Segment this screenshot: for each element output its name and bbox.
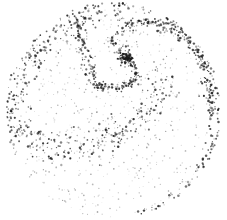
- data-point: [121, 31, 122, 32]
- data-point: [96, 96, 98, 98]
- data-point: [105, 127, 106, 128]
- data-point: [62, 189, 63, 190]
- data-point: [207, 70, 208, 71]
- data-point: [84, 73, 86, 75]
- data-point: [118, 25, 119, 26]
- data-point: [98, 128, 100, 130]
- data-point: [95, 77, 96, 78]
- data-point: [60, 19, 61, 20]
- data-point: [119, 19, 120, 20]
- data-point: [119, 143, 120, 144]
- data-point: [19, 136, 20, 137]
- data-point: [15, 152, 16, 154]
- data-point: [114, 183, 115, 184]
- data-point: [135, 12, 136, 13]
- data-point: [127, 130, 129, 132]
- data-point: [16, 131, 18, 133]
- data-point: [22, 101, 24, 103]
- data-point: [22, 74, 25, 77]
- data-point: [62, 158, 64, 160]
- data-point: [111, 24, 112, 25]
- data-point: [137, 111, 138, 112]
- data-point: [49, 49, 51, 51]
- data-point: [161, 25, 162, 26]
- data-point: [51, 132, 52, 133]
- data-point: [63, 157, 64, 158]
- data-point: [89, 160, 91, 162]
- data-point: [122, 128, 124, 130]
- data-point: [34, 50, 36, 52]
- data-point: [51, 44, 52, 45]
- data-point: [146, 209, 147, 210]
- data-point: [12, 109, 14, 111]
- data-point: [210, 82, 211, 83]
- data-point: [199, 61, 200, 62]
- data-point: [22, 60, 23, 61]
- data-point: [26, 111, 27, 112]
- data-point: [46, 52, 48, 54]
- data-point: [84, 29, 86, 31]
- data-point: [88, 156, 90, 158]
- data-point: [54, 83, 55, 84]
- data-point: [136, 78, 137, 79]
- data-point: [217, 121, 219, 123]
- data-point: [38, 66, 41, 69]
- data-point: [28, 52, 30, 54]
- data-point: [157, 21, 158, 22]
- data-point: [48, 81, 49, 82]
- data-point: [134, 76, 135, 77]
- data-point: [215, 138, 217, 140]
- data-point: [114, 135, 115, 136]
- data-point: [206, 84, 207, 85]
- data-point: [89, 17, 92, 20]
- data-point: [208, 62, 210, 64]
- data-point: [128, 49, 130, 51]
- data-point: [216, 87, 218, 89]
- data-point: [27, 158, 28, 159]
- data-point: [158, 120, 159, 121]
- data-point: [16, 86, 17, 87]
- data-point: [125, 45, 127, 47]
- data-point: [20, 97, 21, 98]
- data-point: [209, 96, 211, 98]
- data-point: [100, 98, 101, 99]
- data-point: [83, 23, 85, 25]
- data-point: [140, 33, 142, 35]
- data-point: [136, 155, 138, 157]
- data-point: [134, 42, 135, 43]
- data-point: [32, 146, 33, 147]
- data-point: [130, 28, 131, 29]
- data-point: [153, 95, 154, 96]
- data-point: [189, 181, 190, 182]
- data-point: [69, 16, 70, 17]
- data-point: [119, 10, 121, 12]
- data-point: [33, 141, 34, 142]
- data-point: [112, 196, 113, 197]
- data-point: [48, 156, 50, 158]
- data-point: [91, 15, 92, 16]
- data-point: [209, 80, 211, 82]
- data-point: [215, 98, 216, 99]
- data-point: [95, 129, 97, 131]
- data-point: [28, 126, 30, 128]
- data-point: [168, 80, 169, 81]
- data-point: [135, 30, 137, 32]
- data-point: [132, 5, 134, 7]
- data-point: [66, 141, 68, 143]
- data-point: [48, 171, 50, 173]
- data-point: [32, 170, 34, 172]
- data-point: [128, 57, 131, 60]
- data-point: [78, 52, 80, 54]
- data-point: [138, 118, 139, 119]
- data-point: [87, 139, 89, 141]
- data-point: [179, 189, 180, 190]
- data-point: [46, 111, 47, 112]
- data-point: [79, 88, 80, 89]
- data-point: [129, 97, 130, 98]
- data-point: [24, 69, 25, 70]
- data-point: [182, 162, 183, 163]
- data-point: [96, 12, 98, 14]
- data-point: [79, 24, 80, 25]
- data-point: [66, 40, 69, 43]
- data-point: [199, 66, 202, 69]
